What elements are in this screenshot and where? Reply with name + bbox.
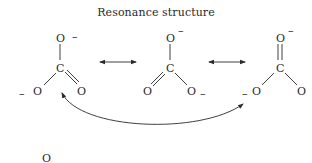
atom-c: C (56, 62, 64, 75)
charge-minus: – (242, 87, 248, 100)
atom-o-top: O (56, 32, 65, 45)
structure-1: O – C O – O (19, 30, 86, 100)
atom-o-left: O (252, 85, 261, 98)
atom-o-right: O (77, 85, 86, 98)
atom-o-right: O (297, 85, 306, 98)
curved-resonance-arrow (62, 93, 243, 124)
charge-minus: – (72, 30, 78, 43)
structure-2: O – C O O – (143, 24, 206, 100)
atom-o-right: O (187, 85, 196, 98)
resonance-diagram: O – C O – O O – C O O – O – C O – O (0, 0, 312, 163)
partial-atom-o: O (42, 152, 51, 163)
charge-minus: – (178, 24, 184, 37)
atom-o-left: O (33, 85, 42, 98)
atom-o-left: O (143, 85, 152, 98)
charge-minus: – (19, 87, 25, 100)
atom-o-top: O (276, 32, 285, 45)
charge-minus: – (200, 87, 206, 100)
charge-minus: – (288, 24, 294, 37)
atom-c: C (276, 62, 284, 75)
atom-c: C (166, 62, 174, 75)
atom-o-top: O (166, 32, 175, 45)
structure-3: O – C O – O (242, 24, 306, 100)
